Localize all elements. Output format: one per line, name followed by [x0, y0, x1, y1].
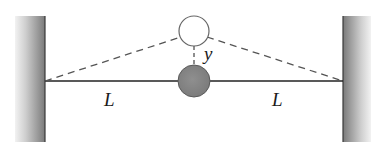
string-mass-diagram: L L y [0, 0, 381, 142]
left-length-label: L [104, 90, 115, 109]
displacement-label: y [204, 44, 212, 63]
mass-displaced-icon [179, 16, 209, 46]
left-wall [15, 16, 45, 142]
right-wall [343, 16, 371, 142]
mass-equilibrium-icon [178, 65, 210, 97]
right-length-label: L [272, 90, 283, 109]
